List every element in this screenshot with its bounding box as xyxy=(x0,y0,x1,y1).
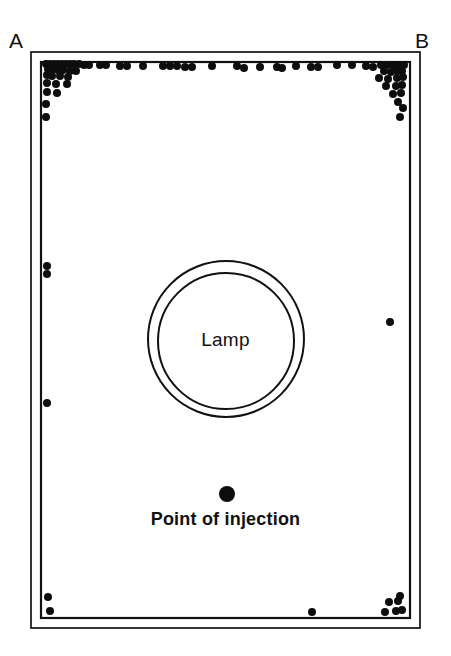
specimen-dot xyxy=(398,606,406,614)
specimen-dot xyxy=(389,90,397,98)
specimen-dot xyxy=(398,81,406,89)
specimen-dot xyxy=(278,64,286,72)
specimen-dot xyxy=(375,74,383,82)
specimen-dot xyxy=(399,73,407,81)
specimen-dot xyxy=(396,592,404,600)
point-of-injection-label: Point of injection xyxy=(0,510,451,528)
specimen-dot xyxy=(173,62,181,70)
specimen-dot xyxy=(382,82,390,90)
specimen-dot xyxy=(166,62,174,70)
specimen-dot xyxy=(43,270,51,278)
injection-point-marker xyxy=(219,486,235,502)
specimen-dot xyxy=(381,608,389,616)
specimen-dot xyxy=(348,61,356,69)
specimen-dot xyxy=(181,63,189,71)
specimen-dot xyxy=(380,67,388,75)
specimen-dot xyxy=(384,75,392,83)
specimen-dot xyxy=(386,318,394,326)
specimen-dot xyxy=(159,62,167,70)
specimen-dot xyxy=(240,64,248,72)
specimen-dot xyxy=(116,62,124,70)
arena-diagram xyxy=(0,0,451,656)
specimen-dot xyxy=(292,62,300,70)
specimen-dot xyxy=(362,62,370,70)
specimen-dot xyxy=(48,72,56,80)
specimen-dot xyxy=(333,61,341,69)
specimen-dot xyxy=(85,61,93,69)
specimen-dot xyxy=(52,80,60,88)
specimen-dot xyxy=(56,72,64,80)
specimen-dot xyxy=(307,63,315,71)
specimen-dot xyxy=(385,598,393,606)
specimen-dot xyxy=(46,607,54,615)
specimen-dot xyxy=(42,113,50,121)
lamp-label: Lamp xyxy=(0,330,451,349)
specimen-dot xyxy=(43,88,51,96)
specimen-dot xyxy=(102,61,110,69)
specimen-dot xyxy=(43,79,51,87)
specimen-dot xyxy=(123,62,131,70)
specimen-dot xyxy=(208,62,216,70)
specimen-dot xyxy=(399,104,407,112)
specimen-dot xyxy=(139,62,147,70)
specimen-dot xyxy=(53,89,61,97)
specimen-dot xyxy=(397,89,405,97)
specimen-dot xyxy=(43,262,51,270)
specimen-dot xyxy=(43,399,51,407)
corner-label-b: B xyxy=(415,30,429,51)
specimen-dot xyxy=(64,73,72,81)
figure-container: A B Lamp Point of injection xyxy=(0,0,451,656)
specimen-dot xyxy=(44,593,52,601)
injection-point xyxy=(219,486,235,502)
specimen-dot xyxy=(188,63,196,71)
specimen-dot xyxy=(369,63,377,71)
specimen-dot xyxy=(256,63,264,71)
specimen-dot xyxy=(63,80,71,88)
specimen-dot xyxy=(314,63,322,71)
corner-label-a: A xyxy=(9,30,23,51)
specimen-dot xyxy=(72,67,80,75)
specimen-dot xyxy=(308,608,316,616)
specimen-dot xyxy=(396,113,404,121)
specimen-dot xyxy=(233,62,241,70)
specimen-dot xyxy=(42,100,50,108)
